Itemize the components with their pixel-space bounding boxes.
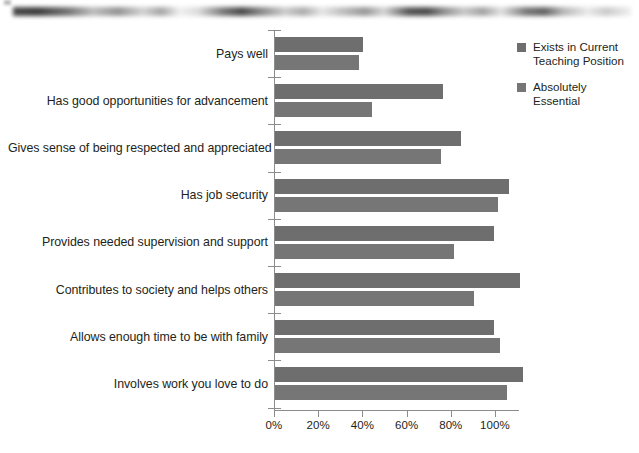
bar — [275, 385, 507, 400]
bar — [275, 55, 359, 70]
bar — [275, 244, 454, 259]
category-label: Provides needed supervision and support — [8, 235, 268, 249]
y-axis-category-tick — [268, 313, 281, 314]
category-label: Has job security — [8, 188, 268, 202]
square-swatch-icon — [517, 43, 526, 52]
category-label-column: Pays wellHas good opportunities for adva… — [0, 22, 268, 453]
x-axis-tick — [318, 411, 319, 417]
x-axis-tick — [451, 411, 452, 417]
y-axis-category-tick — [268, 266, 281, 267]
x-axis-tick — [362, 411, 363, 417]
bar — [275, 320, 494, 335]
bar — [275, 37, 363, 52]
category-label: Pays well — [8, 47, 268, 61]
bar — [275, 226, 494, 241]
legend-item: Exists in Current Teaching Position — [517, 40, 639, 68]
bar — [275, 149, 441, 164]
legend-item-label: Exists in Current Teaching Position — [533, 40, 633, 68]
scan-speck — [4, 0, 11, 5]
bar — [275, 367, 523, 382]
category-label: Contributes to society and helps others — [8, 283, 268, 297]
category-label: Involves work you love to do — [8, 377, 268, 391]
y-axis-category-tick — [268, 124, 281, 125]
x-axis-tick-label: 100% — [480, 419, 510, 431]
bar — [275, 197, 498, 212]
chart-legend: Exists in Current Teaching Position Abso… — [517, 40, 639, 120]
y-axis-category-tick — [268, 219, 281, 220]
y-axis-category-tick — [268, 408, 281, 409]
y-axis-category-tick — [268, 77, 281, 78]
x-axis-tick — [274, 411, 275, 417]
x-axis-tick-label: 40% — [351, 419, 374, 431]
scan-smudge — [13, 7, 631, 16]
scan-artifact-band — [0, 0, 639, 22]
category-label: Allows enough time to be with family — [8, 330, 268, 344]
bar — [275, 179, 509, 194]
square-swatch-icon — [517, 83, 526, 92]
legend-item-label: Absolutely Essential — [533, 80, 633, 108]
x-axis-tick-label: 80% — [439, 419, 462, 431]
category-label: Has good opportunities for advancement — [8, 94, 268, 108]
y-axis-category-tick — [268, 30, 281, 31]
bar — [275, 131, 461, 146]
x-axis-tick — [495, 411, 496, 417]
x-axis-line — [274, 410, 519, 411]
bar — [275, 291, 474, 306]
bar — [275, 273, 520, 288]
bar — [275, 338, 500, 353]
category-label: Gives sense of being respected and appre… — [8, 141, 268, 155]
x-axis-tick-label: 20% — [307, 419, 330, 431]
x-axis-tick — [407, 411, 408, 417]
y-axis-category-tick — [268, 172, 281, 173]
bar — [275, 84, 443, 99]
bar — [275, 102, 372, 117]
x-axis-tick-label: 0% — [266, 419, 283, 431]
y-axis-category-tick — [268, 360, 281, 361]
legend-item: Absolutely Essential — [517, 80, 639, 108]
x-axis-tick-label: 60% — [395, 419, 418, 431]
